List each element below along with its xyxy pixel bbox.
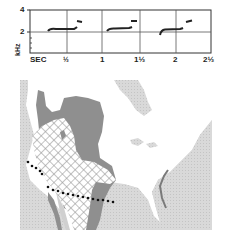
y-tick-4: 4 xyxy=(20,6,24,14)
x-tick-2: 2 xyxy=(173,56,177,64)
x-label-sec: SEC xyxy=(30,56,46,64)
x-tick-2-half: 2½ xyxy=(203,56,214,64)
range-map xyxy=(20,80,212,230)
x-tick-1: 1 xyxy=(100,56,104,64)
x-tick-1-half: 1½ xyxy=(134,56,145,64)
x-tick-half: ½ xyxy=(63,56,69,64)
sonogram: 4 2 kHz SEC ½ 1 1½ 2 2½ xyxy=(0,0,226,70)
y-tick-2: 2 xyxy=(20,28,24,36)
north-america-map xyxy=(20,80,212,230)
y-axis-label: kHz xyxy=(14,44,21,56)
